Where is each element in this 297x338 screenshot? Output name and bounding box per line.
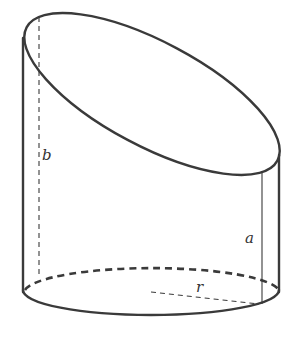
base-ellipse-back-dashed (25, 268, 279, 290)
label-b: b (42, 146, 52, 164)
label-a: a (245, 229, 254, 247)
oblique-top-ellipse (2, 0, 297, 207)
truncated-cylinder-diagram: b a r (0, 0, 297, 338)
radius-r-dashed-line (151, 292, 259, 304)
label-r: r (196, 278, 204, 296)
